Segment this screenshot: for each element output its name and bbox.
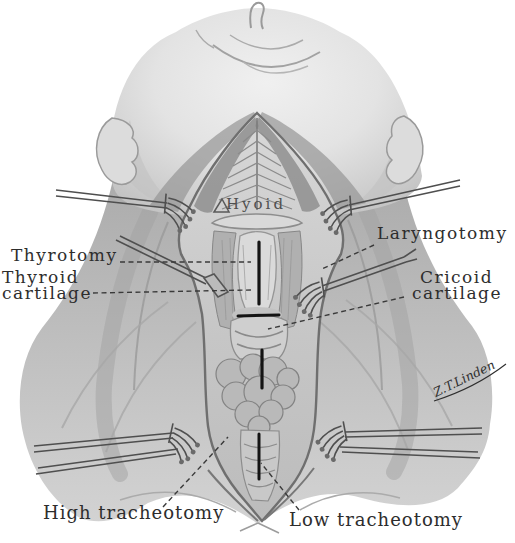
incision-cricothyroid	[238, 315, 279, 316]
left-ear	[97, 118, 138, 184]
label-low-tracheotomy: Low tracheotomy	[289, 512, 463, 528]
label-thyroid-cartilage-line2: cartilage	[2, 285, 92, 301]
label-high-tracheotomy: High tracheotomy	[43, 505, 224, 521]
label-thyrotomy: Thyrotomy	[11, 247, 118, 263]
label-cricoid-cartilage: Cricoid cartilage	[412, 269, 502, 301]
label-cricoid-cartilage-line2: cartilage	[412, 285, 502, 301]
label-thyroid-cartilage: Thyroid cartilage	[2, 269, 92, 301]
label-hyoid: Hyoid	[226, 196, 286, 212]
thyroid-cartilage-shape	[238, 232, 276, 314]
anatomical-plate: Z.T.Linden Hyoid Thyrotomy Thyroid carti…	[0, 0, 515, 543]
label-laryngotomy: Laryngotomy	[377, 225, 508, 241]
